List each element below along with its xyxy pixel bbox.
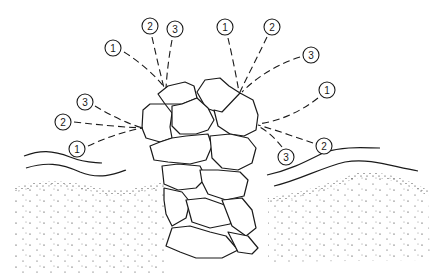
callout-3: 3 [77, 94, 93, 110]
svg-text:3: 3 [82, 97, 88, 108]
svg-text:1: 1 [74, 144, 80, 155]
svg-text:2: 2 [321, 141, 327, 152]
callouts-top-right: 1 2 3 [217, 19, 319, 63]
callout-3: 3 [278, 149, 294, 165]
callout-1: 1 [105, 40, 121, 56]
callout-3: 3 [303, 47, 319, 63]
callout-2: 2 [316, 138, 332, 154]
svg-text:3: 3 [172, 24, 178, 35]
callout-1: 1 [217, 19, 233, 35]
callout-2: 2 [264, 19, 280, 35]
callouts-right: 1 2 3 [278, 82, 335, 165]
svg-text:2: 2 [60, 117, 66, 128]
svg-text:3: 3 [283, 152, 289, 163]
callouts-left: 3 2 1 [55, 94, 93, 157]
svg-text:3: 3 [308, 50, 314, 61]
callout-1: 1 [319, 82, 335, 98]
svg-text:1: 1 [110, 43, 116, 54]
callout-3: 3 [167, 21, 183, 37]
callouts-top-left: 1 2 3 [105, 18, 183, 56]
svg-text:2: 2 [269, 22, 275, 33]
stone-column-diagram: 1 2 3 1 2 3 3 2 1 1 2 3 [0, 0, 442, 275]
svg-text:1: 1 [222, 22, 228, 33]
callout-2: 2 [142, 18, 158, 34]
callout-1: 1 [69, 141, 85, 157]
svg-text:1: 1 [324, 85, 330, 96]
diagram-canvas: 1 2 3 1 2 3 3 2 1 1 2 3 [0, 0, 442, 275]
svg-text:2: 2 [147, 21, 153, 32]
callout-2: 2 [55, 114, 71, 130]
